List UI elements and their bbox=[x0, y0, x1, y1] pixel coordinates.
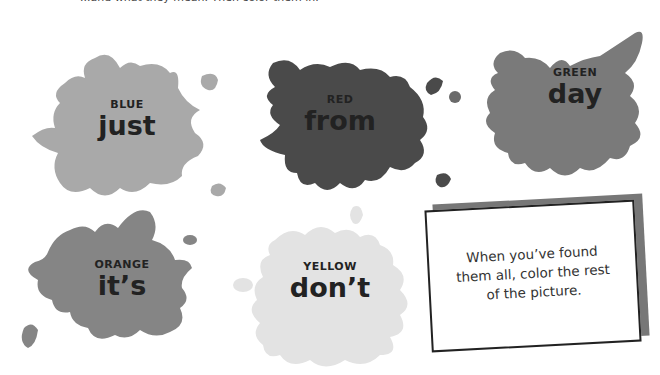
top-instruction-text: ...and what they mean. Then color them i… bbox=[80, 0, 440, 3]
word: don’t bbox=[260, 273, 400, 303]
word: day bbox=[505, 79, 645, 109]
splat-yellow-label: YELLOW don’t bbox=[260, 260, 400, 303]
splat-green-label: GREEN day bbox=[505, 66, 645, 109]
splat-red[interactable]: RED from bbox=[255, 55, 465, 205]
instruction-card: When you’ve found them all, color the re… bbox=[428, 205, 646, 352]
splat-orange-label: ORANGE it’s bbox=[52, 258, 192, 301]
splat-orange[interactable]: ORANGE it’s bbox=[10, 200, 220, 360]
word: just bbox=[57, 111, 197, 141]
splat-yellow[interactable]: YELLOW don’t bbox=[225, 205, 435, 375]
splat-green-shape bbox=[470, 28, 660, 198]
word: from bbox=[270, 106, 410, 136]
splat-blue[interactable]: BLUE just bbox=[20, 48, 250, 208]
splat-blue-label: BLUE just bbox=[57, 98, 197, 141]
card-text: When you’ve found them all, color the re… bbox=[447, 241, 620, 307]
splat-red-label: RED from bbox=[270, 93, 410, 136]
word: it’s bbox=[52, 271, 192, 301]
splat-green[interactable]: GREEN day bbox=[470, 28, 660, 198]
